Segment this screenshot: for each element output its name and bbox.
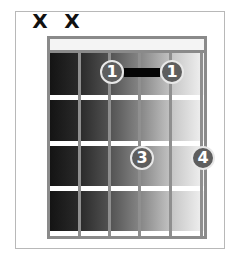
muted-string-6-marker: X [30, 11, 50, 31]
muted-string-5-marker: X [62, 11, 82, 31]
finger-marker-1-string-4: 1 [100, 60, 124, 84]
fret-line-3 [50, 186, 204, 191]
string-3 [138, 53, 141, 236]
barre-bar [124, 68, 160, 77]
fret-line-1 [50, 95, 204, 100]
finger-marker-3-string-3: 3 [130, 146, 154, 170]
fret-line-2 [50, 141, 204, 146]
string-5 [78, 53, 81, 236]
string-1 [200, 53, 203, 236]
fret-line-4 [50, 231, 204, 236]
nut [50, 39, 204, 53]
finger-marker-4-string-1: 4 [191, 146, 215, 170]
finger-marker-1-string-2: 1 [160, 60, 184, 84]
